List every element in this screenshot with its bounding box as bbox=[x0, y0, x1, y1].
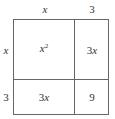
cell-3x-top: 3x bbox=[75, 44, 109, 56]
side-label-3: 3 bbox=[0, 91, 12, 103]
horizontal-divider bbox=[13, 79, 109, 80]
cell-3x-bottom-var: x bbox=[44, 91, 49, 103]
cell-x-squared-exp: 2 bbox=[45, 42, 49, 50]
cell-x-squared: x2 bbox=[14, 42, 74, 54]
top-label-3: 3 bbox=[77, 3, 107, 15]
cell-x-squared-var: x bbox=[40, 42, 45, 54]
cell-3x-top-var: x bbox=[92, 44, 97, 56]
top-label-x: x bbox=[30, 3, 60, 15]
side-label-x: x bbox=[0, 44, 12, 56]
cell-9: 9 bbox=[75, 91, 109, 103]
cell-3x-bottom: 3x bbox=[14, 91, 74, 103]
